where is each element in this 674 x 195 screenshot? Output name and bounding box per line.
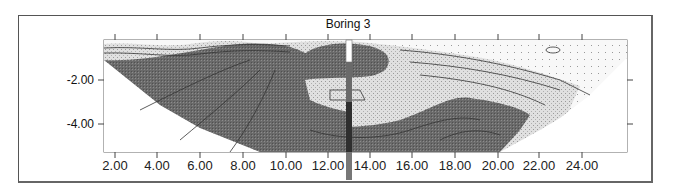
y-tick-label: -4.00 (34, 117, 94, 131)
borehole-top (346, 40, 352, 62)
top-ticks (115, 34, 582, 40)
x-tick-label: 24.00 (557, 158, 607, 173)
y-tick-label: -2.00 (34, 73, 94, 87)
